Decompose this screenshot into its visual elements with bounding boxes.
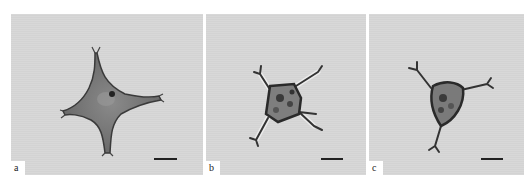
panel-label-box: c — [369, 161, 383, 175]
panel-label-box: b — [206, 161, 220, 175]
cell-image-c — [369, 14, 524, 175]
scale-bar — [481, 158, 503, 160]
cell-image-a — [11, 14, 203, 175]
cell-image-b — [206, 14, 366, 175]
micrograph-panel-a: a — [11, 14, 203, 175]
micrograph-panel-c: c — [369, 14, 524, 175]
panel-label: a — [14, 162, 18, 174]
panel-label: c — [372, 162, 376, 174]
scale-bar — [321, 158, 343, 160]
panel-label: b — [209, 162, 214, 174]
panel-label-box: a — [11, 161, 25, 175]
micrograph-panel-b: b — [206, 14, 366, 175]
scale-bar — [154, 158, 177, 160]
